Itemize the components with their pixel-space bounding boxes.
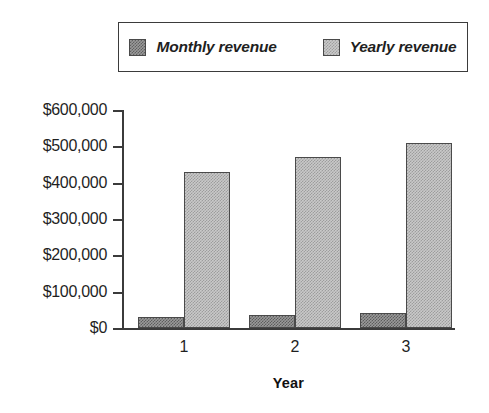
legend-label-monthly-revenue: Monthly revenue [156,38,276,56]
legend-item-monthly-revenue: Monthly revenue [129,38,276,56]
x-tick-label-3: 3 [402,338,411,356]
y-tick-200000: $200,000 [113,255,122,257]
y-tick-400000: $400,000 [113,183,122,185]
y-tick-600000: $600,000 [113,110,122,112]
chart-legend: Monthly revenue Yearly revenue [118,22,468,72]
y-tick-label-100000: $100,000 [43,283,107,301]
y-tick-label-600000: $600,000 [43,101,107,119]
bar-group-year-1 [122,110,233,328]
bar-group-year-2 [233,110,344,328]
bars-layer [122,110,455,328]
y-tick-0: $0 [113,328,122,330]
bar-monthly-revenue-year-2[interactable] [249,315,295,328]
x-axis-line [122,328,455,330]
plot-area: $600,000 $500,000 $400,000 $300,000 $200… [122,110,455,328]
x-tick-label-2: 2 [291,338,300,356]
yearly-revenue-swatch-icon [323,39,340,56]
monthly-revenue-swatch-icon [129,39,146,56]
y-tick-label-200000: $200,000 [43,246,107,264]
bar-group-year-3 [344,110,455,328]
y-tick-500000: $500,000 [113,146,122,148]
y-tick-label-300000: $300,000 [43,210,107,228]
bar-yearly-revenue-year-2[interactable] [295,157,341,328]
x-tick-label-1: 1 [180,338,189,356]
legend-item-yearly-revenue: Yearly revenue [323,38,457,56]
x-axis-title: Year [122,375,455,391]
bar-yearly-revenue-year-1[interactable] [184,172,230,328]
y-tick-label-400000: $400,000 [43,174,107,192]
y-tick-label-500000: $500,000 [43,137,107,155]
bar-monthly-revenue-year-3[interactable] [360,313,406,328]
y-tick-300000: $300,000 [113,219,122,221]
legend-label-yearly-revenue: Yearly revenue [350,38,457,56]
y-tick-label-0: $0 [90,319,107,337]
bar-monthly-revenue-year-1[interactable] [138,317,184,328]
bar-chart: Monthly revenue Yearly revenue $600,000 … [0,0,489,413]
bar-yearly-revenue-year-3[interactable] [406,143,452,328]
y-tick-100000: $100,000 [113,292,122,294]
